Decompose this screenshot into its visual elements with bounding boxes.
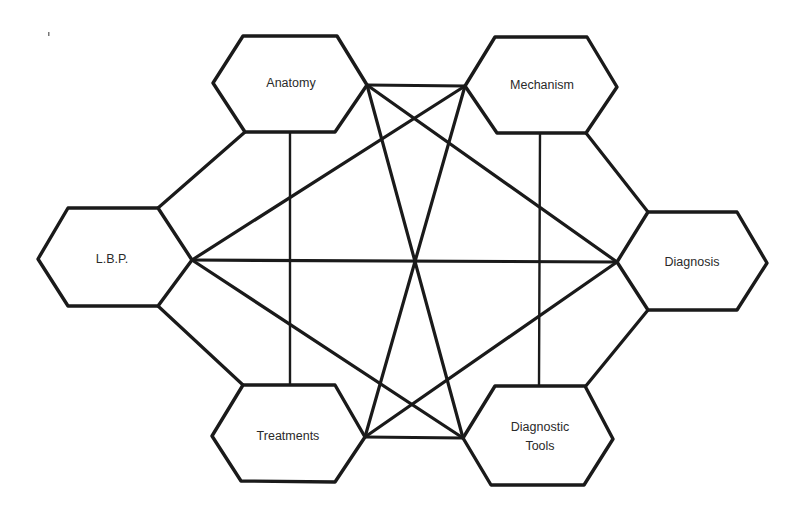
hexagon-diagnostic-tools bbox=[463, 386, 613, 485]
concept-network-diagram: Anatomy Mechanism L.B.P. Diagnosis Treat… bbox=[0, 0, 805, 512]
label-diagnostic-tools-line1: Diagnostic bbox=[511, 420, 569, 434]
label-treatments: Treatments bbox=[257, 429, 320, 443]
label-anatomy: Anatomy bbox=[266, 76, 316, 90]
edge-treatments-diagnostic-tools bbox=[365, 437, 463, 438]
edge-lbp-treatments bbox=[158, 306, 243, 385]
edge-anatomy-mechanism bbox=[367, 85, 465, 86]
edge-anatomy-lbp bbox=[158, 132, 245, 208]
edge-mechanism-diagnostic-tools bbox=[539, 133, 540, 386]
node-treatments: Treatments bbox=[212, 385, 365, 482]
node-diagnostic-tools: Diagnostic Tools bbox=[463, 386, 613, 485]
label-mechanism: Mechanism bbox=[510, 78, 574, 92]
label-diagnostic-tools-line2: Tools bbox=[525, 439, 554, 453]
label-lbp: L.B.P. bbox=[96, 252, 128, 266]
node-anatomy: Anatomy bbox=[213, 36, 367, 132]
node-diagnosis: Diagnosis bbox=[617, 212, 767, 310]
edge-mechanism-diagnosis bbox=[586, 133, 648, 212]
edge-diagnosis-diagnostic-tools bbox=[585, 310, 648, 387]
label-diagnosis: Diagnosis bbox=[665, 255, 720, 269]
node-mechanism: Mechanism bbox=[465, 37, 617, 133]
node-lbp: L.B.P. bbox=[38, 208, 192, 306]
edge-lbp-diagnosis bbox=[192, 260, 617, 262]
scan-speck bbox=[48, 32, 50, 36]
